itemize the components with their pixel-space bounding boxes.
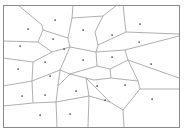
seed-point (138, 41, 139, 42)
voronoi-edge (56, 96, 89, 102)
voronoi-edge (96, 52, 97, 66)
voronoi-edge (123, 89, 140, 110)
voronoi-edge (42, 25, 43, 30)
voronoi-edge (38, 42, 52, 52)
voronoi-edge (68, 38, 70, 47)
voronoi-edge (123, 5, 126, 32)
seed-point (54, 19, 55, 20)
seed-point (151, 98, 152, 99)
seed-point (111, 34, 112, 35)
voronoi-diagram (0, 0, 186, 132)
voronoi-edge (60, 70, 70, 74)
voronoi-edge (72, 16, 103, 18)
voronoi-edge (111, 78, 138, 81)
voronoi-edge (125, 36, 179, 50)
voronoi-edge (68, 18, 72, 38)
voronoi-edge (88, 96, 89, 127)
seed-point (63, 48, 64, 49)
voronoi-edge (96, 50, 125, 52)
voronoi-edge (58, 70, 60, 86)
voronoi-edge (95, 16, 103, 32)
voronoi-edge (97, 66, 110, 69)
voronoi-edge (58, 74, 70, 86)
seed-point (82, 29, 83, 30)
voronoi-edge (96, 45, 98, 52)
voronoi-edge (3, 41, 38, 42)
seed-point (150, 63, 151, 64)
voronoi-edge (125, 50, 128, 60)
voronoi-edge (110, 60, 128, 69)
seed-point (124, 84, 125, 85)
seed-point (49, 75, 50, 76)
seed-point (44, 61, 45, 62)
seed-point (96, 85, 97, 86)
voronoi-edge (110, 102, 123, 110)
voronoi-edge (32, 62, 33, 81)
seed-point (21, 95, 22, 96)
seed-point (17, 68, 18, 69)
voronoi-edge (60, 47, 70, 70)
seed-point (27, 28, 28, 29)
voronoi-edge (70, 47, 96, 52)
seed-point (139, 23, 140, 24)
voronoi-svg (0, 0, 186, 132)
seed-point (111, 56, 112, 57)
voronoi-edge (32, 81, 33, 103)
voronoi-edge (103, 5, 117, 16)
voronoi-edges (3, 5, 179, 127)
seed-point (39, 114, 40, 115)
seed-point (44, 94, 45, 95)
seed-point (82, 59, 83, 60)
voronoi-seeds (17, 19, 152, 115)
voronoi-edge (138, 81, 140, 89)
voronoi-edge (43, 30, 68, 38)
voronoi-edge (56, 86, 58, 102)
seed-point (104, 99, 105, 100)
seed-point (69, 113, 70, 114)
voronoi-edge (18, 5, 42, 25)
seed-point (52, 38, 53, 39)
voronoi-edge (38, 30, 43, 42)
voronoi-edge (33, 52, 52, 62)
voronoi-edge (72, 5, 73, 18)
seed-point (75, 90, 76, 91)
voronoi-edge (70, 66, 97, 74)
voronoi-edge (56, 102, 57, 127)
voronoi-edge (52, 47, 70, 52)
voronoi-edge (70, 74, 86, 78)
voronoi-edge (110, 69, 111, 78)
diagram-frame (4, 6, 180, 128)
voronoi-edge (95, 32, 98, 45)
voronoi-edge (94, 78, 111, 80)
seed-point (19, 45, 20, 46)
voronoi-edge (32, 70, 60, 81)
voronoi-edge (3, 81, 32, 86)
voronoi-edge (126, 32, 179, 34)
voronoi-edge (123, 110, 124, 127)
voronoi-edge (3, 58, 33, 62)
voronoi-edge (3, 103, 33, 106)
voronoi-edge (33, 102, 56, 103)
voronoi-edge (98, 32, 126, 45)
